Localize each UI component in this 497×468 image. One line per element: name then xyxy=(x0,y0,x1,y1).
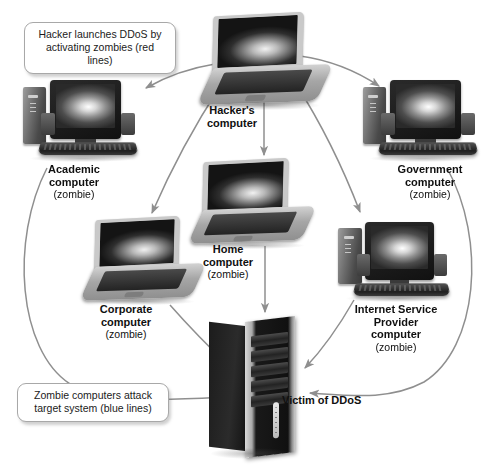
monitor-screen xyxy=(371,226,428,269)
device-victim-tower xyxy=(209,319,295,455)
laptop-screen xyxy=(218,15,298,68)
ddos-diagram: Hacker's computer Academic computer (zom… xyxy=(0,0,497,468)
label-isp-computer: Internet Service Provider computer (zomb… xyxy=(320,303,472,353)
device-shadow xyxy=(370,155,476,162)
power-led-strip xyxy=(273,402,279,438)
laptop-screen xyxy=(207,161,283,210)
label-title: Victim of DDoS xyxy=(282,394,402,407)
laptop-lid xyxy=(212,12,303,74)
callout-zombie-computers-attack: Zombie computers attack target system (b… xyxy=(17,383,169,422)
laptop-screen xyxy=(99,219,174,267)
drive-bay xyxy=(251,362,288,377)
label-sub: (zombie) xyxy=(172,268,284,281)
label-victim-of-ddos: Victim of DDoS xyxy=(282,394,402,407)
laptop-keyboard xyxy=(204,212,298,236)
drive-bay xyxy=(251,332,288,347)
tower-side-panel xyxy=(209,322,247,452)
speaker-right xyxy=(434,254,447,276)
speaker-left xyxy=(357,254,370,276)
label-title: Corporate computer xyxy=(64,303,188,328)
monitor-screen xyxy=(396,84,455,128)
label-title: Internet Service Provider computer xyxy=(320,303,472,341)
device-government-desktop xyxy=(360,80,486,162)
device-shadow xyxy=(211,448,294,459)
label-title: Hacker's computer xyxy=(178,104,286,129)
label-title: Home computer xyxy=(172,243,284,268)
callout-hacker-launches-ddos: Hacker launches DDoS by activating zombi… xyxy=(24,22,176,74)
speaker-right xyxy=(461,113,475,135)
label-corporate-computer: Corporate computer (zombie) xyxy=(64,303,188,341)
device-home-laptop xyxy=(196,160,308,246)
laptop-touchpad xyxy=(124,292,144,298)
label-title: Government computer xyxy=(368,163,492,188)
drive-bay xyxy=(251,347,288,362)
label-hackers-computer: Hacker's computer xyxy=(178,104,286,129)
label-sub: (zombie) xyxy=(64,328,188,341)
label-government-computer: Government computer (zombie) xyxy=(368,163,492,201)
label-sub: (zombie) xyxy=(320,341,472,354)
speaker-left xyxy=(41,113,55,135)
label-title: Academic computer xyxy=(12,163,136,188)
device-shadow xyxy=(30,155,136,162)
label-academic-computer: Academic computer (zombie) xyxy=(12,163,136,201)
monitor-screen xyxy=(56,84,115,128)
label-sub: (zombie) xyxy=(368,188,492,201)
drive-bay xyxy=(251,377,288,392)
desktop-monitor xyxy=(390,80,461,139)
speaker-left xyxy=(381,113,395,135)
label-sub: (zombie) xyxy=(12,188,136,201)
label-home-computer: Home computer (zombie) xyxy=(172,243,284,281)
laptop-keyboard xyxy=(214,70,313,95)
device-shadow xyxy=(346,295,448,302)
device-isp-desktop xyxy=(336,222,458,302)
desktop-keyboard xyxy=(353,283,451,296)
speaker-right xyxy=(121,113,135,135)
laptop-touchpad xyxy=(245,95,267,101)
desktop-keyboard xyxy=(37,143,139,156)
tower-front-bezel xyxy=(245,316,295,458)
laptop-touchpad xyxy=(233,235,254,241)
device-academic-desktop xyxy=(20,80,146,162)
desktop-monitor xyxy=(50,80,121,139)
device-hacker-laptop xyxy=(206,14,324,106)
desktop-keyboard xyxy=(377,143,479,156)
desktop-monitor xyxy=(365,222,433,280)
